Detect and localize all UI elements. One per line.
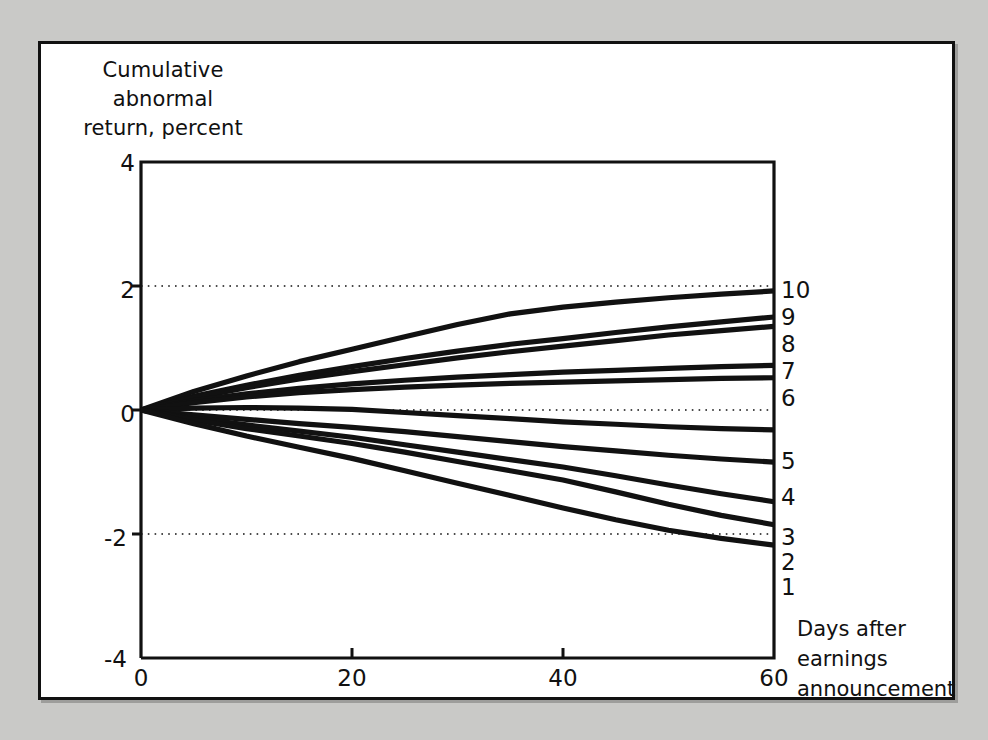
plot-area bbox=[41, 44, 958, 703]
series-line-1 bbox=[141, 410, 774, 545]
chart-root: Cumulative abnormal return, percent Days… bbox=[41, 44, 952, 697]
figure-frame: Cumulative abnormal return, percent Days… bbox=[38, 41, 955, 700]
series-lines bbox=[141, 291, 774, 545]
axis-ticks bbox=[132, 286, 563, 658]
